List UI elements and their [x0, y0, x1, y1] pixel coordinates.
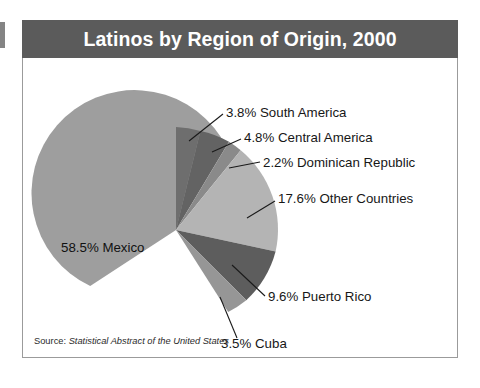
figure-body: 3.8% South America 4.8% Central America … [22, 58, 458, 358]
pie-label-other-countries: 17.6% Other Countries [278, 191, 413, 206]
source-note: Source: Statistical Abstract of the Unit… [34, 336, 229, 346]
source-prefix: Source: [34, 336, 66, 346]
pie-chart-svg [23, 58, 457, 356]
pie-label-central-america: 4.8% Central America [244, 130, 373, 145]
pie-label-south-america: 3.8% South America [226, 105, 346, 120]
scan-edge-artifact [0, 22, 5, 48]
pie-label-cuba: 3.5% Cuba [221, 336, 287, 351]
figure-title: Latinos by Region of Origin, 2000 [22, 20, 458, 58]
figure-title-bar: Latinos by Region of Origin, 2000 [22, 20, 458, 58]
figure-container: Latinos by Region of Origin, 2000 [22, 20, 458, 360]
pie-label-dominican-republic: 2.2% Dominican Republic [263, 155, 415, 170]
pie-chart: 3.8% South America 4.8% Central America … [23, 58, 457, 356]
pie-label-puerto-rico: 9.6% Puerto Rico [268, 289, 371, 304]
source-title: Statistical Abstract of the United State… [69, 336, 229, 346]
pie-label-mexico: 58.5% Mexico [61, 240, 145, 255]
